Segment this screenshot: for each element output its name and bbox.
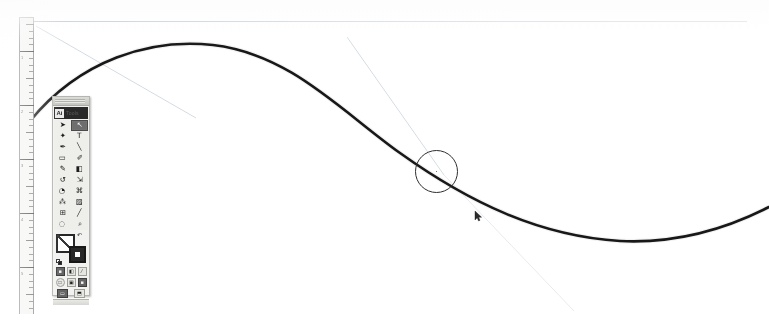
warp-tool-icon: ◔ bbox=[59, 188, 65, 195]
ruler-minor-tick bbox=[29, 220, 34, 221]
brush-cursor bbox=[415, 150, 458, 193]
color-button[interactable]: ■ bbox=[56, 267, 65, 276]
pen-tool-icon: ✒ bbox=[59, 144, 65, 151]
ruler-label: 2 bbox=[21, 110, 23, 114]
selection-tool-icon: ➤ bbox=[59, 122, 65, 129]
tool-symbol-sprayer-tool[interactable]: ⁂ bbox=[54, 197, 71, 208]
ruler-major-tick bbox=[20, 213, 34, 214]
gradient-tool-icon: ▨ bbox=[76, 199, 83, 206]
tool-palette[interactable]: Ai Tools ➤ ↖ ✦ T ✒ bbox=[52, 96, 90, 296]
pencil-tool-icon: ✎ bbox=[59, 166, 65, 173]
default-stroke-black bbox=[58, 261, 62, 265]
screen-mode-normal-icon: ▭ bbox=[60, 291, 65, 296]
pen-cursor-glyph bbox=[475, 211, 482, 221]
artwork-layer bbox=[0, 0, 769, 321]
draw-normal-button[interactable]: □ bbox=[56, 278, 65, 287]
ruler-minor-tick bbox=[29, 206, 34, 207]
screen-mode-full-button[interactable]: ⬒ bbox=[74, 289, 85, 298]
ruler-minor-tick bbox=[29, 92, 34, 93]
palette-logo-row: Ai Tools bbox=[54, 107, 88, 119]
draw-inside-button[interactable]: ■ bbox=[78, 278, 87, 287]
ruler-mid-tick bbox=[26, 132, 34, 133]
ruler-mid-tick bbox=[26, 294, 34, 295]
paintbrush-tool-icon: ✐ bbox=[76, 155, 82, 162]
tool-selection-tool[interactable]: ➤ bbox=[54, 120, 71, 131]
tool-zoom-tool[interactable]: ⌕ bbox=[71, 219, 88, 230]
tool-rectangle-tool[interactable]: ▭ bbox=[54, 153, 71, 164]
draw-normal-icon: □ bbox=[58, 280, 61, 285]
blend-tool-icon: ◌ bbox=[59, 221, 65, 228]
ruler-minor-tick bbox=[29, 58, 34, 59]
mesh-tool-icon: ⊞ bbox=[59, 210, 65, 217]
palette-title-label: Tools bbox=[64, 109, 88, 118]
tool-mesh-tool[interactable]: ⊞ bbox=[54, 208, 71, 219]
rectangle-tool-icon: ▭ bbox=[59, 155, 66, 162]
eraser-tool-icon: ◧ bbox=[76, 166, 83, 173]
document-canvas[interactable]: 12345 Ai Tools ➤ ↖ ✦ T bbox=[0, 0, 769, 321]
tool-eraser-tool[interactable]: ◧ bbox=[71, 164, 88, 175]
tool-pencil-tool[interactable]: ✎ bbox=[54, 164, 71, 175]
ruler-mid-tick bbox=[26, 78, 34, 79]
free-transform-tool-icon: ⌘ bbox=[76, 188, 83, 195]
application-window: 12345 Ai Tools ➤ ↖ ✦ T bbox=[0, 0, 769, 321]
rotate-tool-icon: ↺ bbox=[59, 177, 65, 184]
ruler-minor-tick bbox=[29, 193, 34, 194]
ruler-minor-tick bbox=[29, 125, 34, 126]
color-button-icon: ■ bbox=[58, 269, 61, 274]
draw-behind-button[interactable]: ▣ bbox=[67, 278, 76, 287]
ruler-minor-tick bbox=[29, 200, 34, 201]
ruler-minor-tick bbox=[29, 301, 34, 302]
ruler-minor-tick bbox=[29, 38, 34, 39]
palette-drag-grip[interactable] bbox=[55, 99, 85, 103]
none-button-icon: ⁄ bbox=[82, 269, 83, 274]
stroke-swatch[interactable] bbox=[69, 246, 86, 263]
tool-blend-tool[interactable]: ◌ bbox=[54, 219, 71, 230]
tool-rotate-tool[interactable]: ↺ bbox=[54, 175, 71, 186]
ruler-minor-tick bbox=[29, 274, 34, 275]
curve-halo bbox=[30, 44, 769, 242]
default-fill-stroke-icon[interactable] bbox=[56, 259, 63, 266]
ruler-minor-tick bbox=[29, 166, 34, 167]
ruler-minor-tick bbox=[29, 260, 34, 261]
tool-pen-tool[interactable]: ✒ bbox=[54, 142, 71, 153]
tool-line-segment-tool[interactable]: ╲ bbox=[71, 142, 88, 153]
ruler-label: 4 bbox=[21, 218, 23, 222]
eyedropper-tool-icon: ╱ bbox=[77, 210, 81, 217]
draw-inside-icon: ■ bbox=[80, 280, 83, 285]
vertical-ruler[interactable]: 12345 bbox=[19, 24, 34, 314]
type-tool-icon: T bbox=[77, 133, 81, 140]
tool-eyedropper-tool[interactable]: ╱ bbox=[71, 208, 88, 219]
ruler-minor-tick bbox=[29, 31, 34, 32]
ruler-minor-tick bbox=[29, 247, 34, 248]
ruler-minor-tick bbox=[29, 44, 34, 45]
tool-warp-tool[interactable]: ◔ bbox=[54, 186, 71, 197]
ruler-minor-tick bbox=[29, 98, 34, 99]
direct-selection-tool-icon: ↖ bbox=[76, 122, 82, 129]
symbol-sprayer-tool-icon: ⁂ bbox=[59, 199, 66, 206]
ruler-major-tick bbox=[20, 51, 34, 52]
magic-wand-tool-icon: ✦ bbox=[59, 133, 65, 140]
ruler-minor-tick bbox=[29, 173, 34, 174]
ruler-minor-tick bbox=[29, 71, 34, 72]
tool-type-tool[interactable]: T bbox=[71, 131, 88, 142]
tool-direct-selection-tool[interactable]: ↖ bbox=[71, 120, 88, 131]
ruler-mid-tick bbox=[26, 186, 34, 187]
none-button[interactable]: ⁄ bbox=[78, 267, 87, 276]
gradient-button[interactable]: ◧ bbox=[67, 267, 76, 276]
ruler-minor-tick bbox=[29, 227, 34, 228]
ruler-label: 5 bbox=[21, 272, 23, 276]
s-curve-path[interactable] bbox=[30, 44, 769, 242]
tool-magic-wand-tool[interactable]: ✦ bbox=[54, 131, 71, 142]
tool-grid: ➤ ↖ ✦ T ✒ ╲ ▭ bbox=[53, 119, 89, 231]
screen-mode-normal-button[interactable]: ▭ bbox=[57, 289, 68, 298]
tool-paintbrush-tool[interactable]: ✐ bbox=[71, 153, 88, 164]
tool-scale-tool[interactable]: ⇲ bbox=[71, 175, 88, 186]
ruler-minor-tick bbox=[29, 146, 34, 147]
zoom-tool-icon: ⌕ bbox=[77, 221, 81, 228]
swap-fill-stroke-icon[interactable]: ↶ bbox=[77, 232, 84, 239]
ruler-minor-tick bbox=[29, 179, 34, 180]
tool-free-transform-tool[interactable]: ⌘ bbox=[71, 186, 88, 197]
palette-titlebar[interactable] bbox=[53, 97, 89, 106]
tool-gradient-tool[interactable]: ▨ bbox=[71, 197, 88, 208]
ruler-minor-tick bbox=[29, 139, 34, 140]
